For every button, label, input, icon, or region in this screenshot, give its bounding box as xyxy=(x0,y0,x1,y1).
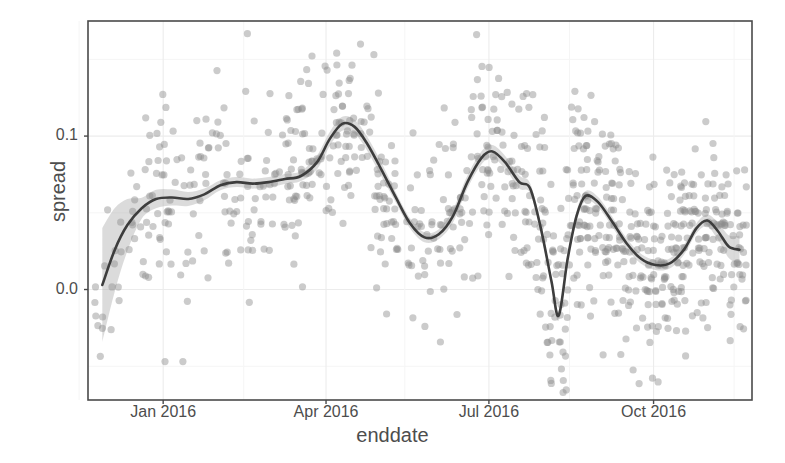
x-axis-label: enddate xyxy=(0,424,785,447)
y-tick-label: 0.0 xyxy=(34,280,78,298)
y-tick-label: 0.1 xyxy=(34,126,78,144)
x-tick-label: Jan 2016 xyxy=(108,403,218,421)
x-tick-label: Jul 2016 xyxy=(434,403,544,421)
chart-root: spread enddate 0.00.1 Jan 2016Apr 2016Ju… xyxy=(0,0,785,463)
x-tick-label: Apr 2016 xyxy=(271,403,381,421)
x-tick-label: Oct 2016 xyxy=(599,403,709,421)
scatter-plot-canvas xyxy=(0,0,785,463)
